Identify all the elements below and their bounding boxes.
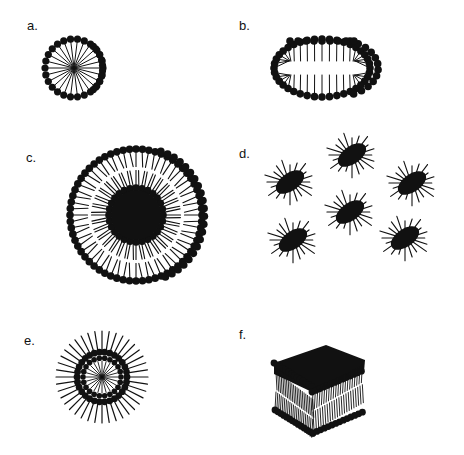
reverse-micelle-e <box>56 331 148 423</box>
lipid-diagram <box>0 0 464 455</box>
micelle-a <box>41 36 106 101</box>
ellipsoid-micelle-b <box>270 35 382 101</box>
vesicle-c <box>66 145 208 285</box>
reverse-micelles-d <box>265 133 434 262</box>
bilayer-f <box>271 345 366 437</box>
